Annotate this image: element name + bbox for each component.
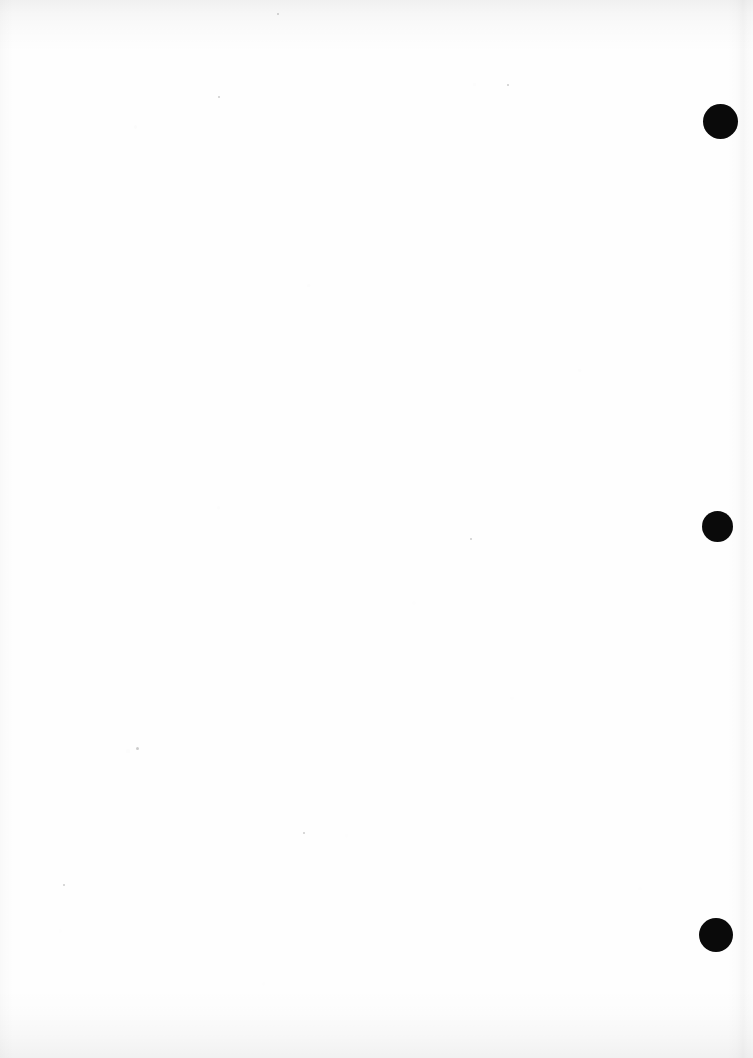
punch-mark-bottom [699,918,733,952]
paper-surface [0,0,753,1058]
scanner-speck [303,832,305,834]
scanner-speck [507,84,509,86]
punch-mark-top [703,104,738,139]
scanner-speck [218,96,220,98]
scanner-speck [277,13,279,15]
scanned-page [0,0,753,1058]
punch-mark-middle [702,511,733,542]
scanner-speck [470,538,472,540]
scanner-speck [63,884,65,886]
scanner-speck [136,747,139,750]
